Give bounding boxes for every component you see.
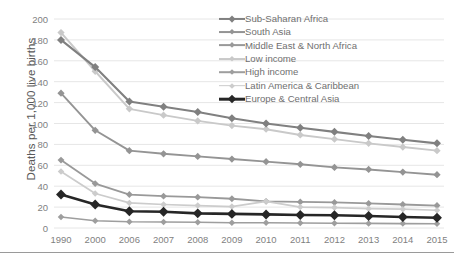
legend-item[interactable]: Middle East & North Africa <box>219 39 379 52</box>
legend-item[interactable]: High income <box>219 66 379 79</box>
data-point-marker <box>364 211 374 221</box>
data-point-marker <box>193 208 203 218</box>
data-point-marker <box>229 203 236 210</box>
data-point-marker <box>194 202 201 209</box>
data-point-marker <box>330 128 338 136</box>
line-chart: Deaths per 1,000 live births 20018016014… <box>0 0 454 267</box>
series-line <box>61 195 437 218</box>
legend-item[interactable]: Europe & Central Asia <box>219 92 379 105</box>
data-point-marker <box>433 171 440 178</box>
x-axis-tick-label: 2007 <box>153 234 174 245</box>
data-point-marker <box>160 150 167 157</box>
legend-swatch-icon <box>219 13 245 24</box>
legend-swatch-icon <box>219 67 245 78</box>
legend-item[interactable]: Latin America & Caribbean <box>219 79 379 92</box>
legend-label: Latin America & Caribbean <box>245 81 359 91</box>
data-point-marker <box>56 190 66 200</box>
data-point-marker <box>160 112 167 119</box>
data-point-marker <box>228 195 235 202</box>
data-point-marker <box>194 219 201 226</box>
data-point-marker <box>262 119 270 127</box>
data-point-marker <box>159 207 169 217</box>
data-point-marker <box>297 220 304 227</box>
data-point-marker <box>329 210 339 220</box>
data-point-marker <box>263 198 270 205</box>
y-axis-tick-label: 180 <box>22 34 48 45</box>
data-point-marker <box>365 132 373 140</box>
chart-bottom-border <box>0 252 454 253</box>
y-axis-tick-label: 40 <box>22 181 48 192</box>
data-point-marker <box>297 204 304 211</box>
y-axis-tick-label: 20 <box>22 202 48 213</box>
data-point-marker <box>126 200 133 207</box>
x-axis-tick-label: 2009 <box>221 234 242 245</box>
y-axis-tick-label: 140 <box>22 76 48 87</box>
data-point-marker <box>365 220 372 227</box>
legend-swatch-icon <box>219 80 245 91</box>
x-axis-tick-label: 2015 <box>426 234 447 245</box>
data-point-marker <box>331 136 338 143</box>
data-point-marker <box>365 205 372 212</box>
y-axis-tick-label: 0 <box>22 223 48 234</box>
legend-item[interactable]: Sub-Saharan Africa <box>219 12 379 25</box>
legend-item[interactable]: Low income <box>219 52 379 65</box>
x-axis-tick-label: 2012 <box>324 234 345 245</box>
x-axis-tick-label: 1990 <box>50 234 71 245</box>
y-axis-tick-label: 80 <box>22 139 48 150</box>
y-axis-tick-label: 100 <box>22 118 48 129</box>
y-axis-tick-labels: 200180160140120100806040200 <box>22 0 48 267</box>
data-point-marker <box>365 166 372 173</box>
legend-swatch-icon <box>219 53 245 64</box>
chart-top-border <box>0 0 454 1</box>
y-axis-tick-label: 160 <box>22 55 48 66</box>
x-axis-tick-label: 2008 <box>187 234 208 245</box>
y-axis-tick-label: 200 <box>22 14 48 25</box>
legend-label: Middle East & North Africa <box>245 41 357 51</box>
legend-label: High income <box>245 67 298 77</box>
data-point-marker <box>126 218 133 225</box>
data-point-marker <box>297 131 304 138</box>
data-point-marker <box>432 213 442 223</box>
data-point-marker <box>399 168 406 175</box>
data-point-marker <box>92 217 99 224</box>
data-point-marker <box>194 194 201 201</box>
legend-swatch-icon <box>219 94 245 105</box>
data-point-marker <box>365 140 372 147</box>
legend-item[interactable]: South Asia <box>219 25 379 38</box>
legend-label: South Asia <box>245 27 291 37</box>
x-axis-tick-label: 2000 <box>85 234 106 245</box>
legend: Sub-Saharan AfricaSouth AsiaMiddle East … <box>219 12 379 106</box>
data-point-marker <box>433 139 441 147</box>
data-point-marker <box>228 114 236 122</box>
legend-swatch-icon <box>219 27 245 38</box>
series-line <box>61 217 437 224</box>
x-axis-tick-label: 2014 <box>392 234 413 245</box>
data-point-marker <box>433 147 440 154</box>
series-middle-east-north-africa <box>58 157 441 209</box>
data-point-marker <box>331 220 338 227</box>
data-point-marker <box>227 209 237 219</box>
legend-label: Low income <box>245 54 296 64</box>
data-point-marker <box>263 220 270 227</box>
data-point-marker <box>58 214 65 221</box>
data-point-marker <box>124 206 134 216</box>
x-axis-tick-label: 2006 <box>119 234 140 245</box>
legend-label: Sub-Saharan Africa <box>245 14 328 24</box>
data-point-marker <box>194 108 202 116</box>
x-axis-tick-label: 2013 <box>358 234 379 245</box>
x-axis-tick-label: 2010 <box>256 234 277 245</box>
data-point-marker <box>331 204 338 211</box>
series-line <box>61 160 437 205</box>
data-point-marker <box>261 209 271 219</box>
y-axis-tick-label: 120 <box>22 97 48 108</box>
data-point-marker <box>399 136 407 144</box>
data-point-marker <box>295 210 305 220</box>
data-point-marker <box>160 103 168 111</box>
legend-swatch-icon <box>219 40 245 51</box>
x-axis-tick-labels: 1990200020062007200820092010201120122013… <box>54 232 444 250</box>
legend-label: Europe & Central Asia <box>245 94 339 104</box>
data-point-marker <box>262 158 269 165</box>
data-point-marker <box>194 153 201 160</box>
data-point-marker <box>228 155 235 162</box>
data-point-marker <box>434 207 441 214</box>
